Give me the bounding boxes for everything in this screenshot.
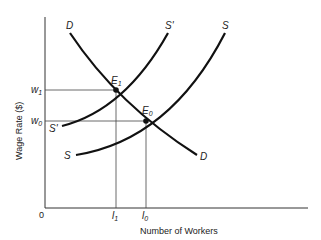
y-tick-w0: w0	[31, 115, 42, 127]
equilibrium-E0-label: E0	[142, 105, 153, 117]
origin-label: 0	[39, 210, 44, 220]
supply-curve-S	[76, 33, 225, 155]
s-prime-bottom-label: S'	[49, 123, 59, 134]
s-top-label: S	[222, 20, 229, 31]
equilibrium-E1-label: E1	[111, 75, 122, 87]
y-tick-w1: w1	[31, 84, 42, 96]
demand-top-label: D	[66, 20, 73, 31]
x-axis-title: Number of Workers	[140, 226, 218, 236]
labor-market-diagram: D D S' S' S S E1 E0 w1 w0 0 l1 l0 Number…	[0, 0, 321, 240]
s-prime-top-label: S'	[165, 20, 175, 31]
x-tick-l1: l1	[112, 210, 118, 222]
s-bottom-label: S	[64, 150, 71, 161]
demand-bottom-label: D	[200, 151, 207, 162]
demand-curve-D	[70, 33, 197, 155]
equilibrium-E1-dot	[113, 87, 119, 93]
equilibrium-E0-dot	[143, 118, 149, 124]
y-axis-title: Wage Rate ($)	[14, 102, 24, 160]
x-tick-l0: l0	[142, 210, 148, 222]
